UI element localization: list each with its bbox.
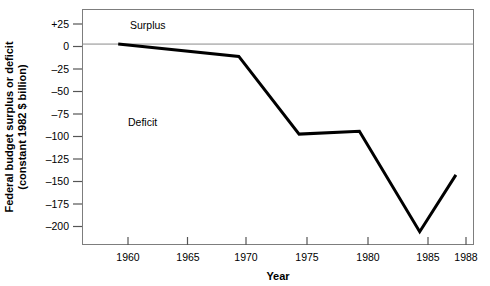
budget-deficit-line-chart: +25 0 –25 –50 –75 –100 –125 –150 –175 –2…	[0, 0, 490, 286]
y-tick-label-neg175: –175	[46, 198, 70, 210]
y-tick-label-neg150: –150	[46, 175, 70, 187]
x-tick-label-1960: 1960	[116, 251, 140, 263]
y-axis-title-line2: (constant 1982 $ billion)	[16, 64, 28, 190]
y-tick-label-neg125: –125	[46, 153, 70, 165]
y-tick-label-neg75: –75	[51, 108, 69, 120]
y-tick-label-neg25: –25	[51, 63, 69, 75]
surplus-region-label: Surplus	[130, 19, 166, 31]
x-tick-label-1975: 1975	[295, 251, 319, 263]
y-axis-title-line1: Federal budget surplus or deficit	[3, 41, 15, 212]
y-tick-label-0: 0	[63, 40, 69, 52]
y-tick-label-25: +25	[51, 18, 69, 30]
x-axis-tick-labels: 1960 1965 1970 1975 1980 1985 1988	[116, 251, 478, 263]
y-axis-title: Federal budget surplus or deficit (const…	[3, 41, 28, 212]
deficit-region-label: Deficit	[128, 116, 157, 128]
y-tick-label-neg200: –200	[46, 220, 70, 232]
y-axis-ticks	[73, 24, 82, 227]
x-tick-label-1970: 1970	[234, 251, 258, 263]
x-tick-label-1965: 1965	[176, 251, 200, 263]
y-tick-label-neg50: –50	[51, 85, 69, 97]
y-axis-tick-labels: +25 0 –25 –50 –75 –100 –125 –150 –175 –2…	[46, 18, 70, 233]
x-tick-label-1988: 1988	[454, 251, 478, 263]
x-tick-label-1985: 1985	[416, 251, 440, 263]
chart-figure: +25 0 –25 –50 –75 –100 –125 –150 –175 –2…	[0, 0, 490, 286]
x-tick-label-1980: 1980	[356, 251, 380, 263]
y-tick-label-neg100: –100	[46, 130, 70, 142]
x-axis-title: Year	[266, 270, 290, 282]
